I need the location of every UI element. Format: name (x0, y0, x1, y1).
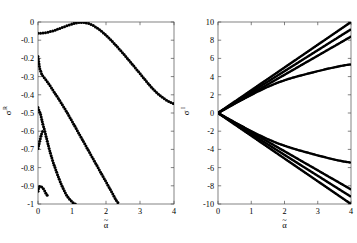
y-axis-title-base: σ (3, 110, 13, 115)
y-tick-label: 0 (30, 18, 34, 27)
y-tick-label: -0.7 (21, 145, 34, 154)
x-axis-title-tilde: ~ (104, 216, 109, 225)
y-tick-label: -0.6 (21, 127, 34, 136)
y-tick-label: -10 (203, 200, 214, 209)
data-point (349, 188, 351, 190)
data-point (349, 202, 351, 204)
sigma-i-plot: 012341086420-2-4-6-8-10α~σI (179, 0, 357, 243)
y-tick-label: 4 (210, 73, 214, 82)
sigma-r-plot: 012340-0.1-0.2-0.3-0.4-0.5-0.6-0.7-0.8-0… (0, 0, 178, 243)
x-axis: 01234 (216, 22, 353, 216)
y-tick-label: -6 (207, 164, 214, 173)
y-axis-title: σI (180, 107, 191, 115)
y-tick-label: -0.9 (21, 182, 34, 191)
data-point (349, 21, 351, 23)
data-point (41, 130, 44, 133)
y-axis-title-superscript: R (2, 105, 8, 110)
y-tick-label: 10 (206, 18, 214, 27)
data-point (46, 194, 49, 197)
y-tick-label: -0.8 (21, 164, 34, 173)
y-axis: 1086420-2-4-6-8-10 (203, 18, 351, 209)
data-point (349, 36, 351, 38)
x-tick-label: 0 (36, 207, 40, 216)
data-series-group (37, 21, 175, 206)
x-tick-label: 1 (70, 207, 74, 216)
y-tick-label: -4 (207, 145, 214, 154)
y-tick-label: -1 (27, 200, 34, 209)
x-tick-label: 1 (249, 207, 253, 216)
x-tick-label: 4 (349, 207, 353, 216)
y-axis-title: σR (2, 105, 13, 115)
data-series-group (217, 21, 352, 205)
y-axis-title-superscript: I (180, 107, 186, 109)
y-tick-label: -2 (207, 127, 214, 136)
series-branch-2 (37, 55, 120, 204)
x-tick-label: 0 (216, 207, 220, 216)
y-tick-label: 0 (210, 109, 214, 118)
x-tick-label: 4 (172, 207, 176, 216)
chart-panel-sigma-i: 012341086420-2-4-6-8-10α~σI (179, 0, 357, 243)
x-tick-label: 3 (316, 207, 320, 216)
y-tick-label: 8 (210, 36, 214, 45)
y-tick-label: -0.4 (21, 91, 34, 100)
y-tick-label: 6 (210, 54, 214, 63)
y-tick-label: 2 (210, 91, 214, 100)
series-lower-4 (217, 112, 351, 164)
y-tick-label: -0.5 (21, 109, 34, 118)
data-point (74, 202, 77, 205)
y-axis-title-base: σ (181, 110, 191, 115)
series-branch-4 (37, 130, 45, 150)
y-tick-label: -8 (207, 182, 214, 191)
y-axis: 0-0.1-0.2-0.3-0.4-0.5-0.6-0.7-0.8-0.9-1 (21, 18, 174, 209)
chart-panel-sigma-r: 012340-0.1-0.2-0.3-0.4-0.5-0.6-0.7-0.8-0… (0, 0, 178, 243)
data-point (116, 201, 119, 204)
x-axis: 01234 (36, 22, 176, 216)
figure-container: 012340-0.1-0.2-0.3-0.4-0.5-0.6-0.7-0.8-0… (0, 0, 357, 243)
x-axis-title-tilde: ~ (282, 216, 287, 225)
y-tick-label: -0.1 (21, 36, 34, 45)
series-branch-1 (37, 21, 175, 105)
y-tick-label: -0.3 (21, 73, 34, 82)
x-tick-label: 3 (138, 207, 142, 216)
data-point (349, 161, 351, 163)
y-tick-label: -0.2 (21, 54, 34, 63)
